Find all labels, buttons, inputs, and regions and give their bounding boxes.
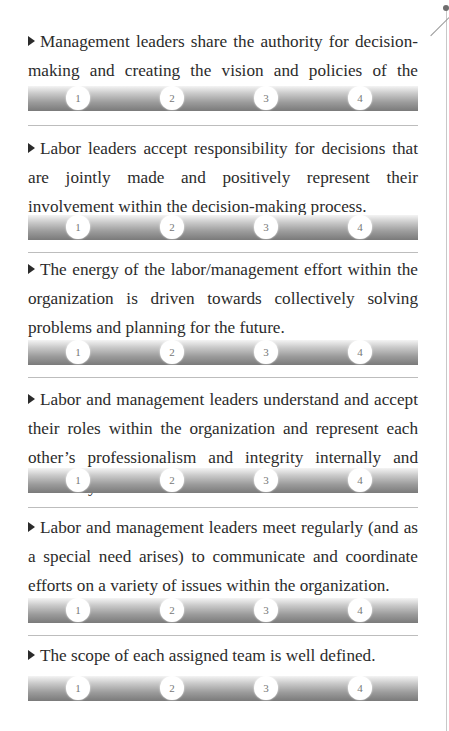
bullet-triangle-icon: [28, 650, 35, 660]
statement-5: Labor and management leaders meet regula…: [28, 513, 418, 600]
rating-scale-bar: 1 2 3 4: [28, 676, 418, 701]
rating-scale-bar: 1 2 3 4: [28, 468, 418, 493]
survey-item-5: Labor and management leaders meet regula…: [28, 513, 418, 600]
rating-option-4[interactable]: 4: [348, 598, 372, 622]
statement-3: The energy of the labor/management effor…: [28, 255, 418, 342]
rating-scale-bar: 1 2 3 4: [28, 86, 418, 111]
section-divider: [28, 252, 418, 253]
rating-option-2[interactable]: 2: [160, 468, 184, 492]
survey-item-2: Labor leaders accept responsibility for …: [28, 134, 418, 221]
rating-option-3[interactable]: 3: [254, 86, 278, 110]
section-divider: [28, 125, 418, 126]
rating-option-3[interactable]: 3: [254, 676, 278, 700]
rating-option-1[interactable]: 1: [66, 598, 90, 622]
survey-item-4: Labor and management leaders understand …: [28, 385, 418, 501]
survey-item-3: The energy of the labor/management effor…: [28, 255, 418, 342]
rating-option-1[interactable]: 1: [66, 86, 90, 110]
rating-option-1[interactable]: 1: [66, 468, 90, 492]
statement-2: Labor leaders accept responsibility for …: [28, 134, 418, 221]
rating-scale-bar: 1 2 3 4: [28, 598, 418, 623]
rating-option-4[interactable]: 4: [348, 340, 372, 364]
rating-option-3[interactable]: 3: [254, 468, 278, 492]
survey-item-6: The scope of each assigned team is well …: [28, 641, 418, 670]
rating-option-4[interactable]: 4: [348, 86, 372, 110]
bullet-triangle-icon: [28, 143, 35, 153]
page-corner-dot: [443, 5, 449, 11]
statement-text: The energy of the labor/management effor…: [28, 260, 418, 337]
rating-scale-bar: 1 2 3 4: [28, 215, 418, 240]
rating-option-1[interactable]: 1: [66, 215, 90, 239]
rating-scale-bar: 1 2 3 4: [28, 340, 418, 365]
bullet-triangle-icon: [28, 522, 35, 532]
rating-option-2[interactable]: 2: [160, 340, 184, 364]
statement-6: The scope of each assigned team is well …: [28, 641, 418, 670]
statement-text: The scope of each assigned team is well …: [40, 646, 376, 665]
rating-option-2[interactable]: 2: [160, 676, 184, 700]
statement-text: Labor leaders accept responsibility for …: [28, 139, 418, 216]
bullet-triangle-icon: [28, 394, 35, 404]
rating-option-3[interactable]: 3: [254, 598, 278, 622]
rating-option-3[interactable]: 3: [254, 215, 278, 239]
rating-option-2[interactable]: 2: [160, 86, 184, 110]
rating-option-3[interactable]: 3: [254, 340, 278, 364]
page-edge-line: [446, 8, 447, 731]
rating-option-4[interactable]: 4: [348, 215, 372, 239]
rating-option-2[interactable]: 2: [160, 598, 184, 622]
rating-option-1[interactable]: 1: [66, 676, 90, 700]
rating-option-2[interactable]: 2: [160, 215, 184, 239]
survey-item-1: Management leaders share the authority f…: [28, 27, 418, 114]
section-divider: [28, 377, 418, 378]
statement-text: Labor and management leaders meet regula…: [28, 518, 418, 595]
rating-option-4[interactable]: 4: [348, 676, 372, 700]
section-divider: [28, 507, 418, 508]
bullet-triangle-icon: [28, 36, 35, 46]
bullet-triangle-icon: [28, 264, 35, 274]
section-divider: [28, 635, 418, 636]
rating-option-4[interactable]: 4: [348, 468, 372, 492]
rating-option-1[interactable]: 1: [66, 340, 90, 364]
